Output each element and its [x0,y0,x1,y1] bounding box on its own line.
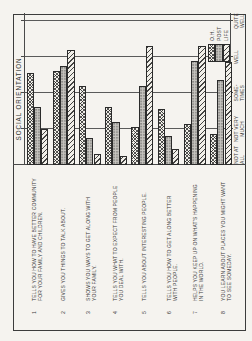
legend-swatch-oh [208,44,215,62]
bar-item8-oh [210,134,217,165]
axis-scale-label-line: WELL [239,1,245,41]
survey-item-text: YOU LEARN ABOUT PLACES YOU MIGHT WANTTO … [220,182,233,301]
survey-item-text: TELLS YOU HOW TO HAVE BETTER COMMUNITYFO… [31,178,44,301]
bar-item7-oh [184,124,191,165]
legend-label-post: POST [216,27,222,41]
plot-frame-top [24,13,25,165]
survey-item-text: TELLS YOU HOW TO GET ALONG BETTERWITH PE… [166,196,179,301]
survey-item-number: 6 [166,311,172,320]
survey-item-text-line: WITH PEOPLE. [172,196,178,301]
survey-item-text-line: GIVES YOU THINGS TO TALK ABOUT. [60,208,66,301]
bar-item2-oh [53,71,60,165]
bar-item8-post [217,80,224,165]
axis-scale-label-line: TIMES [239,73,245,113]
survey-item-text-line: YOU DEAL WITH. [118,186,124,301]
bar-item4-post [112,122,119,165]
survey-item-number: 2 [60,311,66,320]
survey-item-text-line: FOR YOUR FAMILY AND CHILDREN. [37,178,43,301]
bar-item6-post [165,136,172,165]
survey-item-text: TELLS YOU ABOUT INTERESTING PEOPLE. [141,192,147,301]
survey-item-text-line: TO SEE SOMEDAY. [226,182,232,301]
bar-item5-oh [131,127,138,165]
survey-item-number: 1 [31,311,37,320]
survey-item-text-line: TELLS YOU ABOUT INTERESTING PEOPLE. [141,192,147,301]
bar-item6-oh [158,109,165,165]
survey-item-text-line: YOUR FAMILY. [91,197,97,301]
bar-item4-oh [105,107,112,165]
bar-item1-oh [27,73,34,165]
axis-scale-label-line: WELL [233,37,239,77]
bar-item5-post [139,86,146,165]
legend-label-life: LIFE [223,30,229,41]
survey-item-number: 3 [85,311,91,320]
survey-item-text: GIVES YOU THINGS TO TALK ABOUT. [60,208,66,301]
survey-item-text: TELLS YOU WHAT TO EXPECT FROM PEOPLEYOU … [112,186,125,301]
bar-item2-post [60,66,67,165]
survey-item-number: 5 [141,311,147,320]
bar-item4-life [120,156,127,165]
legend-label-oh: O.H. [209,30,215,41]
bar-item1-life [41,129,48,165]
bar-item3-post [86,138,93,165]
survey-item-text-line: IN THE WORLD. [198,184,204,301]
survey-item-text: HELPS YOU KEEP UP ON WHAT'S HAPPENINGIN … [192,184,205,301]
bar-item2-life [67,50,74,165]
bar-item3-oh [79,86,86,165]
legend-swatch-life [223,44,230,62]
scanned-chart-page: SOCIAL ORIENTATION 1TELLS YOU HOW TO HAV… [0,0,252,341]
gridline [24,20,230,21]
bar-item7-life [198,46,205,165]
survey-item-text: SHOWS YOU WAYS TO GET ALONG WITHYOUR FAM… [85,197,98,301]
bar-item6-life [172,149,179,165]
survey-item-number: 8 [220,311,226,320]
survey-item-number: 7 [192,311,198,320]
legend-swatch-post [215,44,222,62]
rotated-page-stage: SOCIAL ORIENTATION 1TELLS YOU HOW TO HAV… [0,0,252,341]
axis-scale-label: NOT VERYMUCH [233,109,245,149]
bar-item1-post [34,107,41,165]
bar-item3-life [94,154,101,165]
axis-scale-label: SOME-TIMES [233,73,245,113]
bar-item5-life [146,46,153,165]
axis-scale-label: WELL [233,37,239,77]
bar-item8-life [225,62,232,165]
chart-title: SOCIAL ORIENTATION [15,23,22,175]
bar-item7-post [191,61,198,165]
axis-scale-label: QUITEWELL [233,1,245,41]
axis-scale-label-line: MUCH [239,109,245,149]
survey-item-number: 4 [112,311,118,320]
